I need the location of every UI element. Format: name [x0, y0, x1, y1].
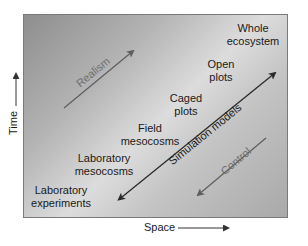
label-caged-plots: Caged plots	[170, 92, 202, 117]
label-whole-ecosystem: Whole ecosystem	[227, 22, 280, 47]
y-axis-label: Time	[7, 111, 19, 135]
label-field-mesocosms: Field mesocosms	[121, 122, 180, 147]
x-axis-label: Space	[144, 221, 175, 233]
label-laboratory-experiments: Laboratory experiments	[31, 184, 91, 209]
label-laboratory-mesocosms: Laboratory mesocosms	[75, 152, 134, 177]
label-open-plots: Open plots	[208, 58, 235, 83]
